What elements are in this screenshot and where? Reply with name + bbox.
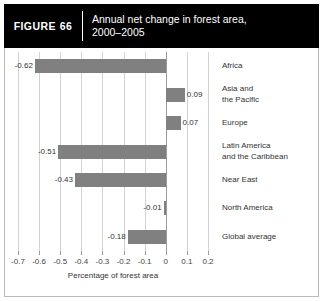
x-axis-tick [166, 251, 167, 255]
bar-row: -0.51 [18, 145, 208, 159]
bar-row: -0.43 [18, 173, 208, 187]
x-axis-tick [18, 251, 19, 255]
bar-value-label: 0.07 [183, 116, 199, 130]
figure-number: 66 [60, 20, 72, 32]
category-label: Near East [222, 175, 258, 186]
chart-panel: -0.7-0.6-0.5-0.4-0.3-0.2-0.100.10.2-0.62… [4, 48, 319, 297]
x-axis-tick [187, 251, 188, 255]
bar-row: 0.07 [18, 116, 208, 130]
category-label: Global average [222, 232, 276, 243]
x-axis-tick [81, 251, 82, 255]
bar-value-label: -0.01 [142, 201, 162, 215]
plot-area: -0.7-0.6-0.5-0.4-0.3-0.2-0.100.10.2-0.62… [18, 52, 208, 251]
bar [166, 88, 185, 102]
x-axis-tick [102, 251, 103, 255]
category-label-line: and the Caribbean [222, 152, 288, 163]
category-label: Europe [222, 118, 248, 129]
bar [166, 116, 181, 130]
bar [58, 145, 166, 159]
bar-row: -0.62 [18, 59, 208, 73]
bar [75, 173, 166, 187]
gridline [208, 52, 209, 251]
category-label-line: the Pacific [222, 95, 259, 106]
bar-value-label: -0.62 [13, 59, 33, 73]
bar [128, 230, 166, 244]
category-label: Latin Americaand the Caribbean [222, 141, 288, 162]
category-label: Africa [222, 61, 242, 72]
figure-container: FIGURE 66 Annual net change in forest ar… [0, 0, 323, 301]
x-axis-title: Percentage of forest area [18, 271, 208, 280]
x-axis-tick-label: 0.2 [194, 257, 222, 266]
x-axis-tick [60, 251, 61, 255]
figure-number-block: FIGURE 66 [4, 4, 82, 48]
category-label: North America [222, 203, 273, 214]
category-label-line: Near East [222, 175, 258, 186]
category-label-line: Europe [222, 118, 248, 129]
bar [164, 201, 166, 215]
bar-row: -0.01 [18, 201, 208, 215]
figure-label: FIGURE [14, 20, 56, 32]
x-axis-tick [39, 251, 40, 255]
x-axis-tick [145, 251, 146, 255]
category-label-line: Latin America [222, 141, 288, 152]
category-label-line: Global average [222, 232, 276, 243]
figure-title-line-2: 2000–2005 [92, 26, 247, 40]
figure-title-line-1: Annual net change in forest area, [92, 13, 247, 27]
x-axis-tick [208, 251, 209, 255]
bar-value-label: -0.43 [53, 173, 73, 187]
bar-value-label: -0.18 [106, 230, 126, 244]
x-axis-tick [124, 251, 125, 255]
bar [35, 59, 166, 73]
bar-row: 0.09 [18, 88, 208, 102]
bar-value-label: -0.51 [36, 145, 56, 159]
category-label-line: Asia and [222, 84, 259, 95]
bar-value-label: 0.09 [187, 88, 203, 102]
category-label-line: Africa [222, 61, 242, 72]
category-label-line: North America [222, 203, 273, 214]
figure-header: FIGURE 66 Annual net change in forest ar… [4, 4, 319, 48]
bar-row: -0.18 [18, 230, 208, 244]
category-label: Asia andthe Pacific [222, 84, 259, 105]
figure-title: Annual net change in forest area, 2000–2… [83, 4, 319, 48]
